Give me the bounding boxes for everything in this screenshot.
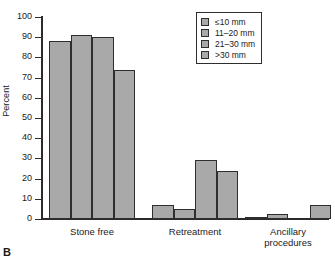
y-tick-mark (35, 17, 41, 18)
y-tick-label: 100 (6, 12, 32, 21)
panel-letter: B (3, 246, 11, 258)
legend-swatch-icon (201, 29, 209, 37)
legend-item: ≤10 mm (201, 16, 255, 27)
bar (114, 70, 136, 219)
bar (71, 35, 93, 219)
bar (92, 37, 114, 219)
legend-swatch-icon (201, 18, 209, 26)
y-tick-label: 20 (6, 174, 32, 183)
y-tick-label: 30 (6, 153, 32, 162)
y-tick-label: 60 (6, 93, 32, 102)
legend-item: 11–20 mm (201, 27, 255, 38)
y-tick-mark (35, 37, 41, 38)
bar (267, 214, 289, 219)
legend-label: 11–20 mm (215, 28, 255, 38)
bar (310, 205, 332, 219)
plot-area (42, 17, 328, 219)
bar (49, 41, 71, 219)
y-tick-label: 40 (6, 133, 32, 142)
y-tick-mark (35, 118, 41, 119)
y-tick-mark (35, 199, 41, 200)
y-tick-label: 50 (6, 113, 32, 122)
y-tick-mark (35, 57, 41, 58)
bar (152, 205, 174, 219)
legend-swatch-icon (201, 40, 209, 48)
bar (245, 217, 267, 219)
y-tick-label: 0 (6, 214, 32, 223)
x-axis-group-label: Stone free (42, 226, 142, 237)
legend-label: 21–30 mm (215, 39, 255, 49)
y-tick-label: 90 (6, 32, 32, 41)
y-tick-label: 70 (6, 73, 32, 82)
y-tick-mark (35, 98, 41, 99)
y-tick-label: 10 (6, 194, 32, 203)
y-tick-mark (35, 138, 41, 139)
x-axis-group-label: Retreatment (145, 226, 245, 237)
bar (174, 209, 196, 219)
y-tick-mark (35, 219, 41, 220)
legend-item: 21–30 mm (201, 38, 255, 49)
y-tick-mark (35, 78, 41, 79)
bar (217, 171, 239, 219)
bar (195, 160, 217, 219)
y-tick-mark (35, 158, 41, 159)
legend: ≤10 mm11–20 mm21–30 mm>30 mm (196, 12, 262, 64)
legend-label: ≤10 mm (215, 17, 246, 27)
y-tick-label: 80 (6, 52, 32, 61)
x-axis-group-label: Ancillary procedures (238, 226, 335, 248)
legend-swatch-icon (201, 51, 209, 59)
y-tick-mark (35, 179, 41, 180)
legend-label: >30 mm (215, 50, 246, 60)
legend-item: >30 mm (201, 49, 255, 60)
